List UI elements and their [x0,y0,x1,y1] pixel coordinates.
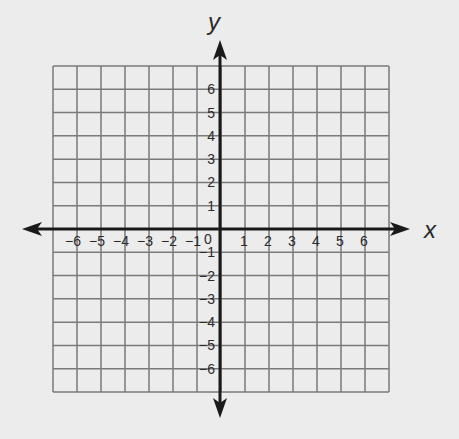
origin-label: 0 [204,231,212,247]
y-tick-label: 6 [207,81,215,97]
axes [22,40,410,418]
y-tick-label: −6 [199,361,215,377]
x-tick-label: −4 [113,233,129,249]
y-tick-label: −2 [199,268,215,284]
x-tick-label: −2 [161,233,177,249]
x-tick-label: −5 [89,233,105,249]
x-tick-label: 4 [312,233,320,249]
y-tick-label: 5 [207,105,215,121]
x-tick-label: −3 [137,233,153,249]
x-tick-label: 1 [240,233,248,249]
coordinate-plane: −6−5−4−3−2−1123456654321−1−2−3−4−5−6 x y… [0,0,459,439]
x-tick-label: 2 [264,233,272,249]
y-axis-label: y [206,8,222,35]
y-tick-label: 2 [207,174,215,190]
x-tick-label: 5 [336,233,344,249]
x-axis-label: x [423,216,437,243]
x-tick-label: −6 [65,233,81,249]
coordinate-plane-svg: −6−5−4−3−2−1123456654321−1−2−3−4−5−6 x y… [0,0,459,439]
x-tick-label: 6 [360,233,368,249]
y-tick-label: −4 [199,314,215,330]
x-tick-label: 3 [288,233,296,249]
y-tick-label: −3 [199,291,215,307]
y-tick-label: 1 [207,198,215,214]
y-tick-label: 3 [207,151,215,167]
y-tick-label: 4 [207,128,215,144]
y-tick-label: −5 [199,337,215,353]
